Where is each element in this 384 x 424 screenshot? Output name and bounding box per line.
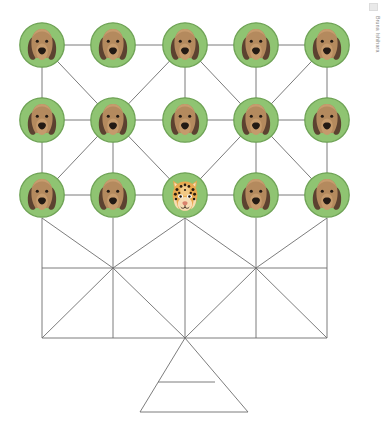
lattice-segment (256, 218, 327, 268)
dog-node[interactable] (91, 173, 135, 217)
corner-mark-icon (369, 3, 378, 11)
lattice-segment (113, 218, 185, 268)
dog-node[interactable] (234, 173, 278, 217)
jaguar-node[interactable] (163, 173, 207, 217)
lattice-segment (42, 268, 113, 338)
dog-node[interactable] (20, 173, 64, 217)
dog-node[interactable] (305, 23, 349, 67)
dog-node[interactable] (20, 98, 64, 142)
artist-credit: Bruna Ishihara (375, 16, 381, 53)
dog-node[interactable] (163, 98, 207, 142)
dog-node[interactable] (305, 98, 349, 142)
lattice-segment (185, 218, 256, 268)
diagram-canvas: Bruna Ishihara (0, 0, 384, 424)
lattice-segment (140, 338, 185, 412)
lattice-segment (185, 268, 256, 338)
dog-node[interactable] (234, 23, 278, 67)
dog-node[interactable] (234, 98, 278, 142)
lattice-layer (42, 218, 327, 412)
network-diagram (0, 0, 384, 424)
lattice-segment (185, 338, 248, 412)
dog-node[interactable] (163, 23, 207, 67)
lattice-segment (256, 268, 327, 338)
dog-node[interactable] (91, 23, 135, 67)
lattice-segment (113, 268, 185, 338)
dog-node[interactable] (91, 98, 135, 142)
dog-node[interactable] (305, 173, 349, 217)
dog-node[interactable] (20, 23, 64, 67)
lattice-segment (42, 218, 113, 268)
